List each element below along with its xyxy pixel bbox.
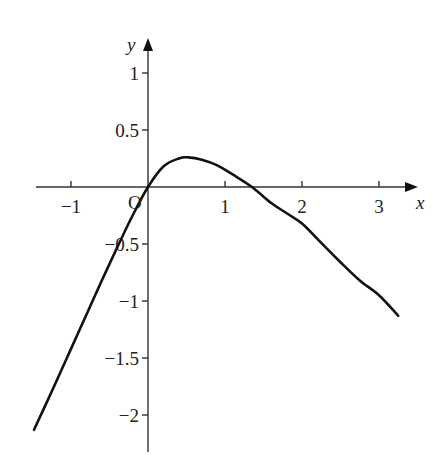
function-plot: −112310.5−0.5−1−1.5−2 x y O: [0, 0, 441, 470]
axes: [36, 44, 412, 452]
x-arrow-icon: [405, 182, 418, 192]
y-tick-label: −1: [119, 291, 139, 312]
x-tick-label: 1: [220, 196, 230, 217]
y-tick-label: 0.5: [115, 120, 139, 141]
y-arrow-icon: [143, 38, 153, 51]
tick-labels: −112310.5−0.5−1−1.5−2: [61, 63, 384, 426]
x-tick-label: 2: [297, 196, 307, 217]
x-tick-label: 3: [374, 196, 384, 217]
y-axis-label: y: [125, 34, 136, 55]
y-tick-label: 1: [130, 63, 140, 84]
y-tick-label: −1.5: [105, 348, 139, 369]
x-axis-label: x: [415, 192, 425, 213]
origin-label: O: [128, 192, 142, 213]
y-tick-label: −2: [119, 405, 139, 426]
function-curve: [34, 157, 398, 430]
x-tick-label: −1: [61, 196, 81, 217]
axis-arrows: [143, 38, 418, 192]
